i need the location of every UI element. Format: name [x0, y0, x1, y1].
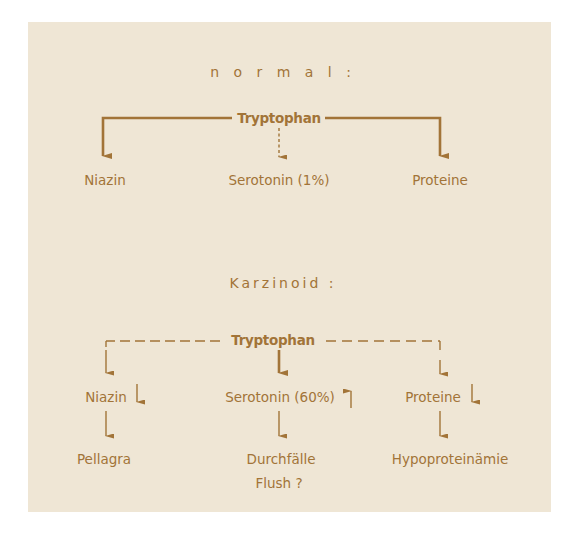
karzinoid-consequence-durchfaelle: Durchfälle: [246, 453, 315, 467]
normal-target-serotonin: Serotonin (1%): [228, 174, 329, 188]
normal-target-niazin: Niazin: [84, 174, 126, 188]
normal-target-proteine: Proteine: [412, 174, 468, 188]
karzinoid-target-serotonin: Serotonin (60%): [225, 391, 335, 405]
normal-source-tryptophan: Tryptophan: [237, 112, 321, 126]
karzinoid-target-proteine: Proteine: [405, 391, 461, 405]
karzinoid-target-niazin: Niazin: [85, 391, 127, 405]
karzinoid-consequence-flush: Flush ?: [255, 477, 302, 491]
karzinoid-consequence-hypoproteinaemie: Hypoproteinämie: [392, 453, 508, 467]
karzinoid-heading: Karzinoid :: [230, 276, 337, 290]
karzinoid-consequence-pellagra: Pellagra: [77, 453, 131, 467]
karzinoid-source-tryptophan: Tryptophan: [231, 334, 315, 348]
normal-heading: n o r m a l :: [210, 65, 356, 79]
